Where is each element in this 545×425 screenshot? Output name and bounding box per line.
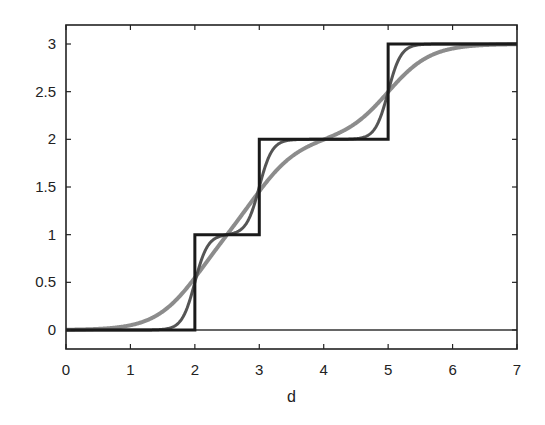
x-tick-label: 2 xyxy=(191,361,199,378)
y-axis-ticks xyxy=(66,44,517,330)
x-tick-label: 1 xyxy=(126,361,134,378)
x-axis-ticks xyxy=(66,25,517,349)
x-axis-label: d xyxy=(287,388,296,405)
plot-area xyxy=(66,25,517,349)
x-axis-tick-labels: 01234567 xyxy=(62,361,521,378)
x-tick-label: 7 xyxy=(513,361,521,378)
y-tick-label: 2 xyxy=(48,130,56,147)
y-tick-label: 1.5 xyxy=(35,178,56,195)
y-tick-label: 3 xyxy=(48,35,56,52)
x-tick-label: 5 xyxy=(384,361,392,378)
x-tick-label: 3 xyxy=(255,361,263,378)
x-tick-label: 0 xyxy=(62,361,70,378)
plot-frame xyxy=(66,25,517,349)
x-tick-label: 6 xyxy=(448,361,456,378)
x-tick-label: 4 xyxy=(320,361,328,378)
series-step-function xyxy=(66,44,517,330)
chart-canvas: 01234567 00.511.522.53 d xyxy=(0,0,545,425)
y-tick-label: 1 xyxy=(48,226,56,243)
series-sharp-sigmoid-sum xyxy=(66,44,517,330)
series-smooth-sigmoid-sum xyxy=(66,44,517,330)
y-axis-tick-labels: 00.511.522.53 xyxy=(35,35,56,338)
series-layer xyxy=(66,44,517,330)
y-tick-label: 0 xyxy=(48,321,56,338)
y-tick-label: 2.5 xyxy=(35,83,56,100)
y-tick-label: 0.5 xyxy=(35,273,56,290)
